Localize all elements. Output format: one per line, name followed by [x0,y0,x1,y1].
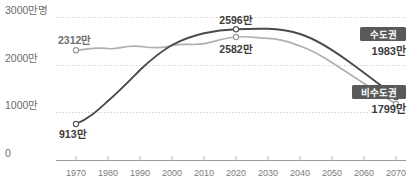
label-start-nonmetro: 2312만 [58,34,91,46]
marker-start-nonmetro [73,48,78,53]
y-tick-3000: 3000만명 [5,4,48,16]
legend-badge-metro[interactable]: 수도권 [360,27,406,41]
label-start-metro: 913만 [59,128,87,140]
marker-peak-upper [233,34,238,39]
x-tick-1980: 1980 [98,168,118,178]
label-peak-upper: 2596만 [219,14,252,26]
marker-peak-lower [233,27,238,32]
x-tick-1970: 1970 [66,168,86,178]
x-tick-2000: 2000 [162,168,182,178]
label-end-metro: 1983만 [372,44,406,57]
x-tick-2030: 2030 [258,168,278,178]
x-tick-1990: 1990 [130,168,150,178]
label-end-nonmetro: 1799만 [372,102,406,115]
population-projection-chart: 3000만명 2000만 1000만 0 1970 1980 1990 2000… [0,0,413,185]
y-tick-1000: 1000만 [5,99,38,111]
legend-badge-metro-label: 수도권 [370,29,397,40]
legend-badge-nonmetro[interactable]: 비수도권 [352,85,406,99]
legend-badge-nonmetro-label: 비수도권 [361,87,397,98]
x-tick-2060: 2060 [354,168,374,178]
x-tick-2070: 2070 [386,168,406,178]
x-tick-2010: 2010 [194,168,214,178]
x-tick-2040: 2040 [290,168,310,178]
label-peak-lower: 2582만 [219,43,252,55]
y-tick-0: 0 [5,147,11,159]
y-tick-2000: 2000만 [5,52,38,64]
x-tick-2020: 2020 [226,168,246,178]
marker-start-metro [73,121,78,126]
x-tick-2050: 2050 [322,168,342,178]
